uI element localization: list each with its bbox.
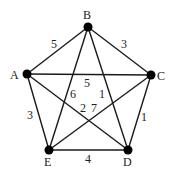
node-label-B: B: [83, 8, 91, 22]
edge-AD: [27, 74, 128, 150]
edge-weight-AB: 5: [51, 37, 57, 51]
node-label-A: A: [10, 68, 19, 82]
node-label-E: E: [44, 155, 51, 169]
node-D: [124, 146, 133, 155]
edge-AB: [27, 27, 88, 74]
edge-weight-CD: 1: [141, 110, 147, 124]
edge-weight-BD: 1: [99, 87, 105, 101]
edge-weight-AC: 5: [84, 76, 90, 90]
weighted-graph-diagram: 5356127314 ABCDE: [0, 0, 174, 177]
node-label-C: C: [157, 69, 165, 83]
edge-weight-ED: 4: [85, 152, 91, 166]
edge-weight-CE: 7: [91, 101, 97, 115]
node-E: [45, 146, 54, 155]
node-B: [84, 23, 93, 32]
edge-weight-BE: 6: [70, 87, 76, 101]
edge-AC: [27, 74, 151, 75]
edge-CD: [128, 75, 151, 150]
edge-weight-BC: 3: [121, 37, 127, 51]
node-C: [147, 71, 156, 80]
node-A: [23, 70, 32, 79]
edge-BC: [88, 27, 151, 75]
edge-weight-AD: 2: [80, 101, 86, 115]
edge-weight-AE: 3: [27, 108, 33, 122]
node-label-D: D: [123, 155, 132, 169]
